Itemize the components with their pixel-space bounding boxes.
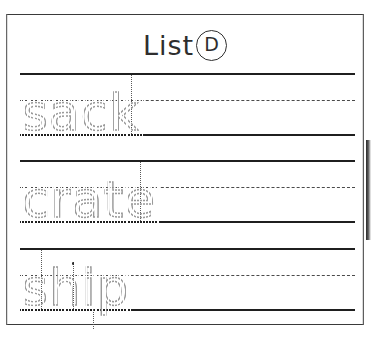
page-edge-strip — [366, 140, 371, 240]
handwriting-worksheet: List D sack crate ship — [0, 0, 371, 338]
list-letter-badge-label: D — [204, 35, 219, 54]
list-letter-badge: D — [196, 30, 227, 61]
worksheet-title: List D — [6, 22, 364, 68]
page-title: List — [143, 32, 194, 59]
